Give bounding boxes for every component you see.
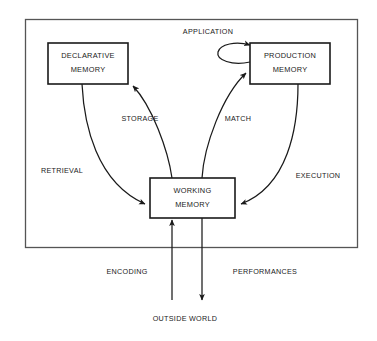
declarative-memory-label-line1: DECLARATIVE — [61, 51, 115, 60]
edge-label-execution: EXECUTION — [296, 171, 341, 180]
edge-label-retrieval: RETRIEVAL — [41, 166, 83, 175]
edge-performances: PERFORMANCES — [202, 218, 297, 300]
edge-retrieval: RETRIEVAL — [41, 84, 145, 204]
declarative-memory-label-line2: MEMORY — [71, 65, 106, 74]
architecture-diagram: APPLICATION STORAGE MATCH RETRIEVAL EXEC… — [0, 0, 377, 341]
retrieval-arrow-path — [82, 84, 145, 204]
storage-arrow-path — [133, 86, 172, 178]
execution-arrow-path — [241, 84, 298, 204]
edge-execution: EXECUTION — [241, 84, 340, 204]
diagram-canvas: APPLICATION STORAGE MATCH RETRIEVAL EXEC… — [0, 0, 377, 341]
working-memory-label-line1: WORKING — [174, 186, 212, 195]
declarative-memory-box[interactable] — [48, 43, 128, 84]
production-memory-label-line2: MEMORY — [273, 65, 308, 74]
node-production-memory[interactable]: PRODUCTION MEMORY — [250, 43, 330, 84]
edge-label-application: APPLICATION — [183, 27, 233, 36]
node-working-memory[interactable]: WORKING MEMORY — [150, 178, 235, 218]
node-declarative-memory[interactable]: DECLARATIVE MEMORY — [48, 43, 128, 84]
outside-world-label: OUTSIDE WORLD — [153, 314, 218, 323]
production-memory-box[interactable] — [250, 43, 330, 84]
edge-storage: STORAGE — [121, 86, 172, 178]
edge-label-match: MATCH — [225, 114, 252, 123]
production-memory-label-line1: PRODUCTION — [264, 51, 316, 60]
edge-encoding: ENCODING — [106, 220, 172, 300]
edge-application: APPLICATION — [183, 27, 250, 63]
working-memory-label-line2: MEMORY — [175, 200, 210, 209]
edge-label-encoding: ENCODING — [106, 267, 147, 276]
edge-label-performances: PERFORMANCES — [233, 267, 297, 276]
match-arrow-path — [202, 73, 246, 178]
edge-match: MATCH — [202, 73, 251, 178]
working-memory-box[interactable] — [150, 178, 235, 218]
application-arrow-path — [218, 43, 250, 63]
edge-label-storage: STORAGE — [121, 114, 158, 123]
